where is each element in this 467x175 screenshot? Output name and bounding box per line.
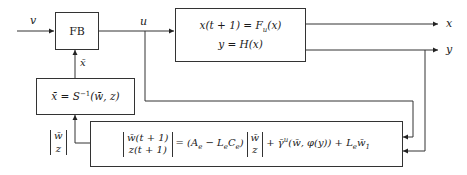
- signal-y-label: y: [446, 44, 452, 55]
- signal-x-label: x: [446, 18, 452, 29]
- signal-u-label: u: [140, 16, 147, 27]
- observer-lhs-vector: w̄(t + 1) z(t + 1): [123, 132, 172, 157]
- signal-v-label: v: [30, 15, 36, 26]
- feedback-block: FB: [55, 12, 99, 50]
- plant-block: x(t + 1) = Fu(x) y = H(x): [175, 8, 306, 62]
- feedback-label: FB: [69, 25, 85, 38]
- observer-block: w̄(t + 1) z(t + 1) = (Ae − LeCe) w̄ z + …: [90, 121, 403, 167]
- plant-state-equation: x(t + 1) = Fu(x): [200, 17, 282, 36]
- inverse-transform-equation: x̄ = S−1(w̄, z): [51, 88, 119, 104]
- inverse-transform-block: x̄ = S−1(w̄, z): [36, 78, 135, 115]
- plant-output-equation: y = H(x): [218, 36, 263, 52]
- observer-state-vector: w̄ z: [247, 132, 264, 157]
- signal-xbar-label: x̄: [80, 58, 86, 68]
- signal-state-vector-label: w̄ z: [50, 130, 67, 155]
- observer-equation: w̄(t + 1) z(t + 1) = (Ae − LeCe) w̄ z + …: [123, 132, 370, 157]
